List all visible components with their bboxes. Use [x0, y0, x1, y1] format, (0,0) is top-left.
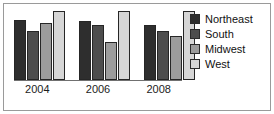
- bar-group: [79, 8, 130, 80]
- bar-northeast-2004: [14, 20, 26, 80]
- legend-item-northeast: Northeast: [190, 11, 268, 26]
- bar-midwest-2006: [105, 42, 117, 80]
- plot-area: [14, 8, 182, 82]
- bar-group: [144, 8, 195, 80]
- legend-label: Northeast: [205, 13, 253, 25]
- legend-item-midwest: Midwest: [190, 41, 268, 56]
- x-tick-label: 2006: [75, 83, 122, 96]
- bar-west-2004: [53, 11, 65, 80]
- bar-group: [14, 8, 65, 80]
- chart-figure: 2004 2006 2008 Northeast South Midwest W…: [0, 0, 274, 114]
- legend-item-west: West: [190, 56, 268, 71]
- bar-midwest-2004: [40, 23, 52, 80]
- bar-south-2006: [92, 25, 104, 80]
- bar-midwest-2008: [170, 36, 182, 80]
- legend-label: South: [205, 28, 234, 40]
- x-tick-label: 2008: [135, 83, 182, 96]
- legend-swatch-icon: [190, 59, 200, 69]
- legend-swatch-icon: [190, 14, 200, 24]
- legend-swatch-icon: [190, 44, 200, 54]
- legend-swatch-icon: [190, 29, 200, 39]
- bar-northeast-2006: [79, 21, 91, 80]
- bar-west-2006: [118, 11, 130, 80]
- bar-northeast-2008: [144, 25, 156, 80]
- bar-south-2008: [157, 31, 169, 80]
- x-axis-labels: 2004 2006 2008: [14, 83, 182, 99]
- x-tick-label: 2004: [14, 83, 61, 96]
- legend-label: West: [205, 58, 230, 70]
- bar-south-2004: [27, 31, 39, 80]
- x-axis-line: [14, 80, 182, 81]
- legend-label: Midwest: [205, 43, 245, 55]
- chart-legend: Northeast South Midwest West: [190, 11, 268, 71]
- bar-groups: [14, 8, 182, 80]
- legend-item-south: South: [190, 26, 268, 41]
